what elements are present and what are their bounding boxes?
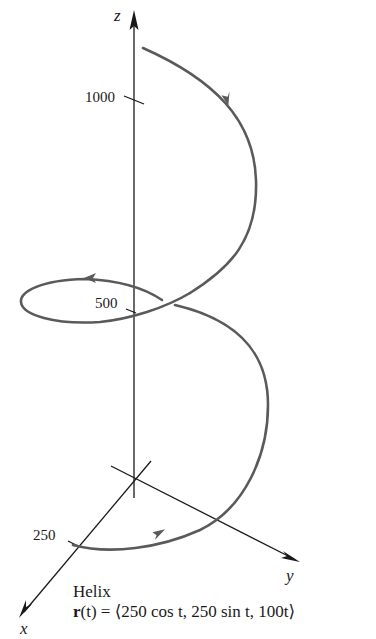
y-axis-arrow-icon [281,551,300,562]
tick-label-250: 250 [33,527,56,544]
y-axis-label: y [286,566,294,586]
direction-arrow-icon [84,273,96,283]
helix-diagram [0,0,376,639]
direction-arrows [84,92,235,540]
equation-vector-r: r [73,602,81,621]
direction-arrow-icon [152,528,167,540]
helix-curve [21,48,268,550]
z-axis-label: z [114,6,121,26]
tick-label-500: 500 [95,295,118,312]
equation-body: (t) = ⟨250 cos t, 250 sin t, 100t⟩ [81,602,296,621]
x-axis-label: x [20,619,28,639]
figure-title: Helix [73,582,111,602]
x-axis-arrow-icon [19,600,32,618]
figure-equation: r(t) = ⟨250 cos t, 250 sin t, 100t⟩ [73,602,295,622]
tick-label-1000: 1000 [85,89,115,106]
z-axis [130,10,139,498]
direction-arrow-icon [221,92,234,107]
